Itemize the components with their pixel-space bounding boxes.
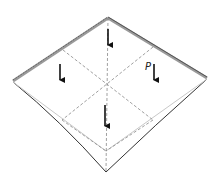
plate-diagram: P <box>0 0 222 183</box>
load-arrows <box>60 29 154 126</box>
load-label: P <box>145 61 151 72</box>
support-edges <box>13 17 207 81</box>
free-edges <box>13 79 207 172</box>
plate-drawing <box>0 0 222 183</box>
